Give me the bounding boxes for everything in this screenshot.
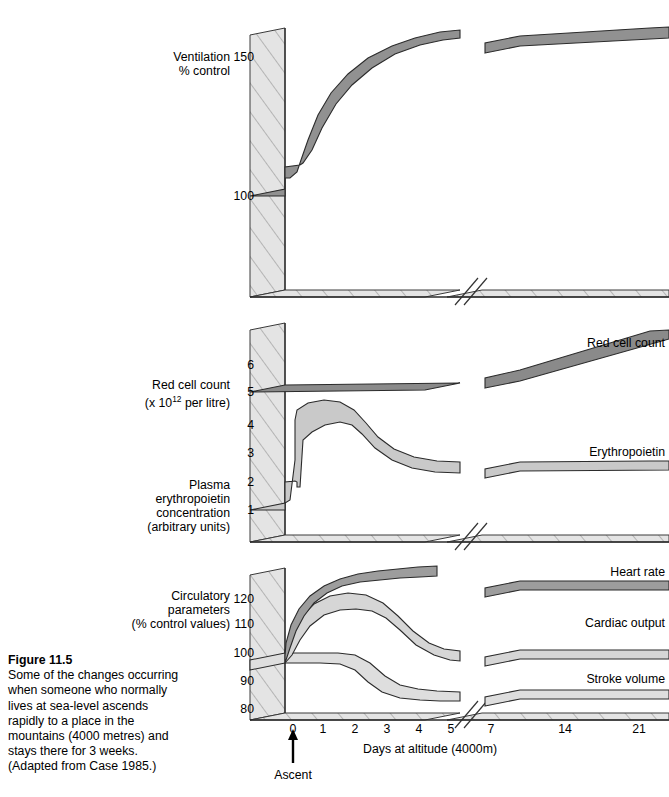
panel3-ytick-100: 100 [228,646,254,660]
figure-number: Figure 11.5 [8,653,72,667]
panel2-ytick-1: 1 [232,503,254,517]
panel3-ytick-120: 120 [228,592,254,606]
ribbon-heart-rate-far [485,581,669,597]
series-label-red-cell-count: Red cell count [540,336,665,350]
floor-plane-far [447,713,669,720]
ascent-label: Ascent [258,768,328,782]
circulatory-ylabel-line1: Circulatory [120,589,230,603]
series-label-erythropoietin: Erythropoietin [540,445,665,459]
panel2-ytick-6: 6 [232,358,254,372]
floor-plane-near [250,713,460,720]
epo-ylabel-line1: Plasma [100,478,230,492]
ribbon-cardiac-output-far [485,650,669,666]
floor-plane-far [447,535,669,542]
floor-plane-far [447,290,669,297]
xtick-5: 5 [441,722,461,736]
panel2-ytick-2: 2 [232,475,254,489]
epo-ylabel-line3: concentration [100,506,230,520]
panel3-ytick-90: 90 [228,674,254,688]
figure-caption-text: Some of the changes occurring when someo… [8,668,178,773]
ribbon-epo-far [485,461,669,478]
panel2-ytick-5: 5 [232,385,254,399]
xtick-2: 2 [345,722,365,736]
ventilation-ytick-150: 150 [228,50,254,64]
series-label-stroke-volume: Stroke volume [535,672,665,686]
figure-caption: Figure 11.5 Some of the changes occurrin… [8,653,183,775]
ribbon-stroke-volume-far [485,690,669,706]
x-axis-label: Days at altitude (4000m) [330,742,530,756]
ventilation-ytick-100: 100 [228,189,254,203]
figure-11-5: Ventilation % control 150 100 Red cell c… [0,0,669,797]
ribbon-ventilation-far [485,27,669,53]
xtick-7: 7 [481,722,501,736]
circulatory-ylabel-line2: parameters [100,603,230,617]
epo-ylabel-line4: (arbitrary units) [100,520,230,534]
panel2-ytick-3: 3 [232,446,254,460]
epo-ylabel-line2: erythropoietin [100,492,230,506]
red-cell-ylabel-line1: Red cell count [100,378,230,392]
panel-red-cell-epo [250,323,669,550]
red-cell-unit-pre: (x 10 [145,396,172,410]
floor-plane-near [250,535,460,542]
panel-ventilation [250,27,669,305]
xtick-1: 1 [313,722,333,736]
xtick-21: 21 [628,722,650,736]
xtick-14: 14 [554,722,576,736]
back-wall-plane [250,28,285,297]
red-cell-ylabel-line2: (x 1012 per litre) [100,392,230,411]
back-wall-plane [250,568,285,720]
xtick-0: 0 [283,722,303,736]
circulatory-ylabel-line3: (% control values) [90,617,230,631]
xtick-3: 3 [377,722,397,736]
red-cell-unit-post: per litre) [181,396,230,410]
panel3-ytick-110: 110 [228,617,254,631]
series-label-heart-rate: Heart rate [545,565,665,579]
panel3-ytick-80: 80 [228,702,254,716]
floor-plane-near [250,290,460,297]
series-label-cardiac-output: Cardiac output [535,616,665,630]
xtick-4: 4 [409,722,429,736]
panel2-ytick-4: 4 [232,418,254,432]
ventilation-ylabel-line2: % control [120,64,230,78]
ventilation-ylabel-line1: Ventilation [120,50,230,64]
